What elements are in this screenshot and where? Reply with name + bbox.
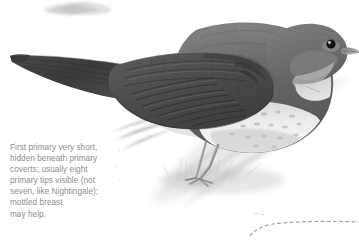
primary-feather-annotation: First primary very short, hidden beneath…: [10, 142, 122, 220]
illustration-plate: First primary very short, hidden beneath…: [0, 0, 359, 240]
bird-eye: [326, 39, 335, 48]
ground-shadow: [160, 167, 284, 193]
